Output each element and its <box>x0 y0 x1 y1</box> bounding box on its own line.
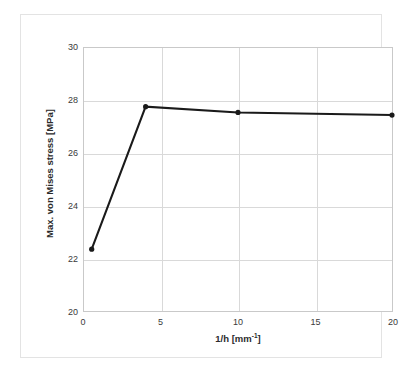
y-tick-label: 26 <box>68 149 78 158</box>
x-axis-tick-labels: 05101520 <box>83 317 393 331</box>
x-tick-label: 10 <box>233 317 243 327</box>
series-markers <box>89 104 394 252</box>
x-tick-label: 15 <box>310 317 320 327</box>
plot-area <box>83 47 393 312</box>
y-tick-label: 20 <box>68 308 78 317</box>
data-series-line <box>84 48 392 311</box>
x-tick-label: 0 <box>80 317 85 327</box>
data-point-marker <box>235 110 240 115</box>
x-tick-label: 5 <box>158 317 163 327</box>
y-tick-label: 24 <box>68 202 78 211</box>
figure-frame: 202224262830 05101520 1/h [mm-1] Max. vo… <box>20 14 382 358</box>
data-point-marker <box>389 112 394 117</box>
y-tick-label: 30 <box>68 43 78 52</box>
y-axis-title: Max. von Mises stress [MPa] <box>44 49 55 299</box>
data-point-marker <box>143 104 148 109</box>
x-tick-label: 20 <box>388 317 398 327</box>
y-tick-label: 22 <box>68 255 78 264</box>
series-polyline <box>92 107 392 250</box>
y-axis-tick-labels: 202224262830 <box>51 47 78 312</box>
y-tick-label: 28 <box>68 96 78 105</box>
x-axis-title: 1/h [mm-1] <box>83 333 393 344</box>
chart-figure: 202224262830 05101520 1/h [mm-1] Max. vo… <box>0 0 402 373</box>
data-point-marker <box>89 247 94 252</box>
